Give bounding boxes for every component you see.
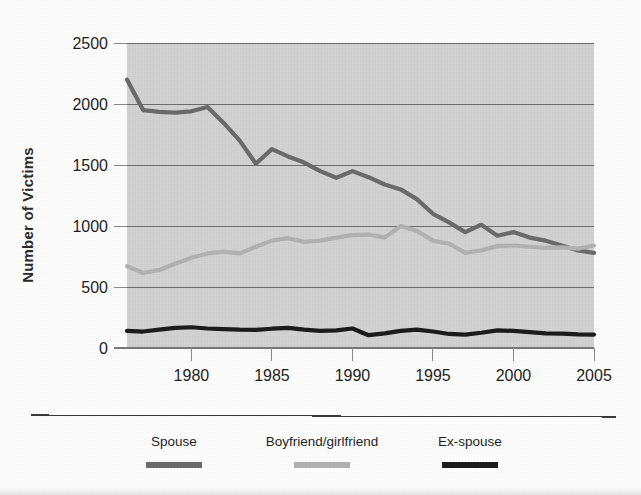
chart-page: 05001000150020002500 1980198519901995200…: [0, 0, 641, 495]
x-tick-label-2000: 2000: [496, 367, 532, 384]
line-chart-svg: 05001000150020002500 1980198519901995200…: [0, 0, 641, 495]
x-tick-label-1990: 1990: [335, 367, 371, 384]
x-tick-label-2005: 2005: [576, 367, 612, 384]
plot-area-background: [127, 43, 594, 348]
x-tick-label-1980: 1980: [174, 367, 210, 384]
legend-label-boyfriend-girlfriend: Boyfriend/girlfriend: [266, 434, 379, 449]
legend-label-spouse: Spouse: [151, 434, 197, 449]
y-tick-label-1000: 1000: [72, 218, 108, 235]
x-tick-label-1995: 1995: [415, 367, 451, 384]
legend-divider-rule: [31, 415, 616, 417]
y-tick-label-2500: 2500: [72, 35, 108, 52]
legend: SpouseBoyfriend/girlfriendEx-spouse: [146, 434, 502, 468]
y-tick-label-2000: 2000: [72, 96, 108, 113]
legend-swatch-boyfriend-girlfriend: [294, 462, 350, 468]
y-axis-title: Number of Victims: [19, 147, 36, 283]
y-tick-label-0: 0: [99, 340, 108, 357]
x-tick-label-1985: 1985: [254, 367, 290, 384]
y-axis-group: 05001000150020002500: [72, 35, 127, 357]
chart-figure: 05001000150020002500 1980198519901995200…: [0, 0, 641, 495]
y-tick-label-1500: 1500: [72, 157, 108, 174]
legend-swatch-ex-spouse: [442, 462, 498, 468]
legend-swatch-spouse: [146, 462, 202, 468]
x-axis-group: 198019851990199520002005: [114, 348, 612, 384]
y-tick-label-500: 500: [81, 279, 108, 296]
legend-label-ex-spouse: Ex-spouse: [438, 434, 502, 449]
